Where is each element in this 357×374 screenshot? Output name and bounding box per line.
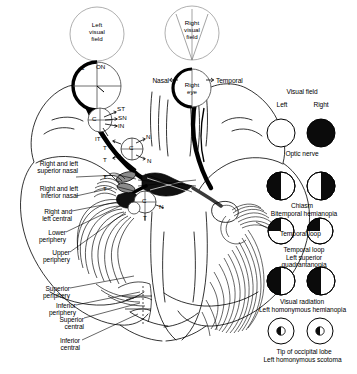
label-right-and-left-central: Right and left central [8, 208, 72, 223]
code-n-upper: N [146, 134, 150, 141]
code-t-tract: T [143, 215, 147, 222]
legend-lesion-temporal-loop: Temporal loop [258, 246, 350, 253]
small-tract-marker-circle [128, 202, 140, 214]
legend-defect-occipital-tip: Left homonymous scotoma [248, 356, 357, 363]
legend-lesion-occipital-tip: Tip of occipital lobe [254, 348, 354, 355]
label-temporal-loop-pathway: Temporal loop [280, 230, 321, 237]
legend-circle-chiasm-right [307, 172, 335, 200]
legend-heading: Visual field [266, 88, 338, 95]
legend-circle-occipital-tip-right [307, 318, 333, 344]
code-t-lower: T [103, 157, 107, 164]
code-it: IT [95, 136, 101, 143]
legend-left-eye-label: Left [264, 101, 300, 108]
code-st: ST [117, 106, 125, 113]
legend-circle-optic-nerve-right [307, 119, 335, 147]
code-c-retina: C [92, 116, 96, 123]
legend-lesion-optic-nerve: Optic nerve [266, 150, 338, 157]
code-on: ON [96, 64, 105, 71]
legend-circle-visual-radiation-left [267, 267, 295, 295]
legend-circle-optic-nerve-left [267, 119, 295, 147]
label-right-and-left-superior-nasal: Right and left superior nasal [6, 160, 78, 175]
legend-lesion-chiasm: Chiasm [272, 202, 332, 209]
nasal-label: Nasal [135, 77, 169, 84]
code-sn: SN [118, 115, 127, 122]
figure-canvas: Left visual field Right visual field Rig… [0, 0, 357, 374]
right-optic-nerve [193, 96, 211, 188]
code-t-nasal-upper: T [103, 174, 107, 181]
legend-defect-temporal-loop: Left superior quadrantanopia [256, 254, 352, 269]
label-superior-central: Superior central [26, 316, 84, 331]
temporal-label: Temporal [216, 77, 243, 84]
legend-circle-visual-radiation-right [307, 267, 335, 295]
nasal-fiber-bundles [115, 170, 137, 195]
label-right-and-left-inferior-nasal: Right and left inferior nasal [6, 185, 78, 200]
legend-circle-chiasm-left [267, 172, 295, 200]
right-optic-radiation [202, 230, 264, 336]
right-eye-label: Right eye [172, 82, 212, 96]
code-t-nasal-lower: T [103, 186, 107, 193]
code-n-tract: N [159, 204, 163, 211]
inferior-nasal-bundle [116, 182, 135, 194]
right-visual-field-label: Right visual field [167, 20, 217, 40]
label-inferior-central: Inferior central [24, 337, 80, 352]
legend-lesion-visual-radiation: Visual radiation [262, 298, 342, 305]
code-c-chiasm-upper: C [129, 145, 133, 152]
label-lower-periphery: Lower periphery [10, 229, 66, 244]
code-c-tract: C [142, 198, 146, 205]
label-superior-periphery: Superior periphery [12, 285, 70, 300]
code-t-upper: T [103, 145, 107, 152]
code-c-optic-disc: C [80, 65, 84, 72]
legend-defect-chiasm: Bitemporal hemianopia [252, 210, 356, 217]
legend-circle-occipital-tip-left [268, 318, 294, 344]
code-in: IN [118, 123, 124, 130]
code-n-lower: N [147, 158, 151, 165]
left-visual-field-label: Left visual field [72, 22, 122, 42]
legend-right-eye-label: Right [303, 101, 339, 108]
label-inferior-periphery: Inferior periphery [18, 302, 76, 317]
legend-defect-visual-radiation: Left homonymous hemianopia [248, 306, 357, 313]
label-upper-periphery: Upper periphery [10, 249, 70, 264]
